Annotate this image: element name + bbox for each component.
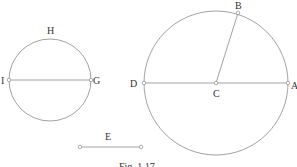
segment-E-group: E <box>78 131 143 149</box>
label-I: I <box>1 75 4 86</box>
label-H: H <box>47 25 54 36</box>
label-B: B <box>235 0 242 11</box>
label-C: C <box>213 88 220 99</box>
segment-E-end-point <box>139 145 143 149</box>
label-A: A <box>291 80 297 91</box>
point-D <box>142 81 146 85</box>
label-G: G <box>93 75 100 86</box>
point-B <box>236 11 240 15</box>
point-A <box>286 81 290 85</box>
right-circle-group: B D C A <box>130 0 297 155</box>
segment-E-start-point <box>78 145 82 149</box>
point-I <box>7 78 11 82</box>
figure-caption: Fig. 1.17 <box>119 161 155 167</box>
label-E: E <box>105 131 111 142</box>
label-D: D <box>130 78 137 89</box>
geometry-figure: H I G B D C A E Fig. 1.17 <box>0 0 297 167</box>
left-circle-group: H I G <box>1 25 100 121</box>
radius-CB <box>216 13 238 83</box>
point-C <box>214 81 218 85</box>
